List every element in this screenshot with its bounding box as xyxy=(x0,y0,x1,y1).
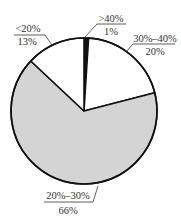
label-30-40: 30%–40% 20% xyxy=(126,33,177,57)
label-lt20-name: <20% xyxy=(15,23,40,34)
label-gt40-name: >40% xyxy=(98,13,123,24)
label-20-30: 20%–30% 66% xyxy=(44,186,98,216)
pie-chart: >40% 1% 30%–40% 20% <20% 13% 20%–30% 66% xyxy=(0,0,181,218)
label-20-30-pct: 66% xyxy=(58,205,78,216)
label-gt40: >40% 1% xyxy=(84,13,126,38)
label-lt20-pct: 13% xyxy=(17,36,37,47)
label-lt20: <20% 13% xyxy=(14,23,52,47)
label-20-30-name: 20%–30% xyxy=(46,190,90,201)
label-gt40-pct: 1% xyxy=(104,26,118,37)
label-30-40-pct: 20% xyxy=(145,46,165,57)
label-30-40-name: 30%–40% xyxy=(133,33,177,44)
